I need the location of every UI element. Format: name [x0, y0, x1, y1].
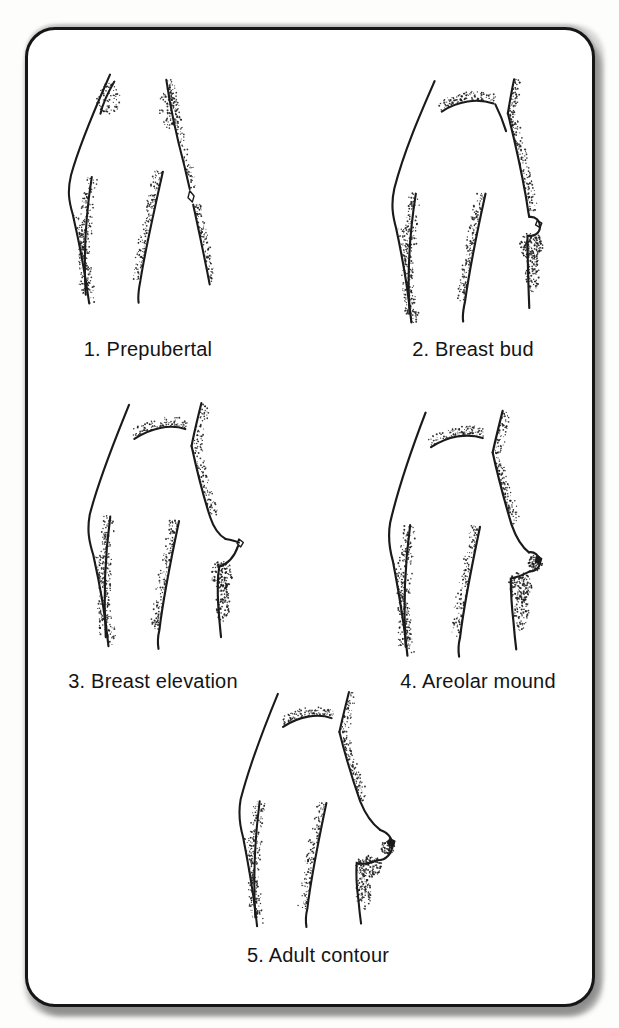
- figure-stage-3: [53, 396, 289, 664]
- illustration-breast-bud: [366, 74, 580, 342]
- figure-label-1: 1. Prepubertal: [48, 338, 248, 361]
- illustration-adult-contour: [194, 680, 438, 940]
- diagram-panel: 1. Prepubertal 2. Breast bud 3. Breast e…: [25, 27, 595, 1007]
- figure-stage-5: [194, 680, 438, 940]
- figure-stage-1: [58, 60, 240, 332]
- figure-stage-4: [348, 400, 592, 672]
- illustration-prepubertal: [58, 60, 240, 332]
- illustration-breast-elevation: [53, 396, 289, 664]
- figure-stage-2: [366, 74, 580, 342]
- figure-label-5: 5. Adult contour: [198, 944, 438, 967]
- figure-label-2: 2. Breast bud: [358, 338, 588, 361]
- illustration-areolar-mound: [348, 400, 592, 672]
- scanned-page: 1. Prepubertal 2. Breast bud 3. Breast e…: [0, 0, 619, 1028]
